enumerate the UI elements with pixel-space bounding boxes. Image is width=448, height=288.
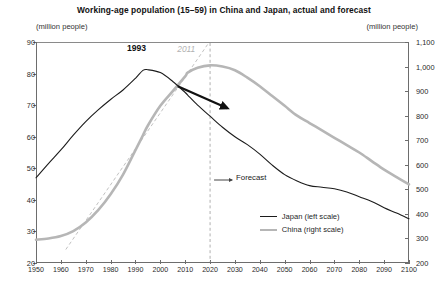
plot-area: 9080706050403020 1,1001,0009008007006005… [36, 42, 409, 263]
right-tick-label: 1,100 [416, 38, 435, 47]
right-axis-unit-label: (million people) [367, 22, 419, 31]
legend-swatch-japan [260, 216, 277, 217]
x-tick-label: 2090 [376, 266, 392, 274]
left-tick-label: 80 [27, 69, 35, 78]
x-tick-label: 2040 [252, 266, 268, 274]
left-tick-label: 50 [27, 164, 35, 173]
left-axis-unit-label: (million people) [36, 22, 88, 31]
right-tick-label: 700 [416, 136, 428, 145]
chart-title: Working-age population (15–59) in China … [0, 5, 448, 15]
right-tick-label: 600 [416, 160, 428, 169]
right-tick-label: 200 [416, 259, 428, 268]
x-tick-label: 1950 [28, 266, 44, 274]
decline-arrow-icon [178, 86, 228, 108]
x-tick-label: 1980 [103, 266, 119, 274]
x-tick-label: 2080 [351, 266, 367, 274]
forecast-label: Forecast [236, 173, 266, 182]
right-tick-label: 500 [416, 185, 428, 194]
x-tick-label: 2060 [302, 266, 318, 274]
x-tick-label: 2010 [177, 266, 193, 274]
series-line-japan [36, 69, 409, 218]
legend-label-china: China (right scale) [282, 225, 344, 234]
x-tick-label: 1970 [78, 266, 94, 274]
right-tick-label: 800 [416, 111, 428, 120]
right-tick-label: 1,000 [416, 62, 435, 71]
right-tick-label: 400 [416, 209, 428, 218]
right-tick-label: 300 [416, 234, 428, 243]
left-tick-label: 40 [27, 195, 35, 204]
x-tick-label: 1960 [53, 266, 69, 274]
left-tick-label: 70 [27, 101, 35, 110]
legend-item-japan: Japan (left scale) [260, 210, 344, 223]
x-tick-label: 2000 [152, 266, 168, 274]
x-tick-label: 2050 [277, 266, 293, 274]
series-line-china [36, 65, 409, 239]
japan-peak-year-label: 1993 [127, 43, 146, 53]
x-tick-mark [409, 260, 410, 264]
series-layer [36, 42, 409, 263]
x-tick-label: 2100 [401, 266, 417, 274]
x-tick-label: 2020 [202, 266, 218, 274]
x-tick-label: 2030 [227, 266, 243, 274]
left-tick-label: 60 [27, 132, 35, 141]
left-tick-label: 90 [27, 38, 35, 47]
x-tick-label: 2070 [327, 266, 343, 274]
legend-label-japan: Japan (left scale) [282, 212, 340, 221]
right-tick-label: 900 [416, 87, 428, 96]
chart-legend: Japan (left scale) China (right scale) [260, 210, 344, 236]
x-tick-label: 1990 [128, 266, 144, 274]
left-tick-label: 30 [27, 227, 35, 236]
china-trend-year-label: 2011 [177, 44, 195, 54]
legend-item-china: China (right scale) [260, 223, 344, 236]
legend-swatch-china [260, 229, 277, 231]
